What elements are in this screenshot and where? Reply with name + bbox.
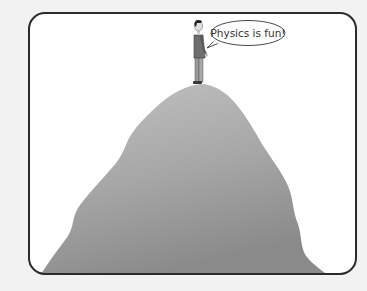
speech-bubble-text: Physics is fun! <box>210 27 285 39</box>
illustration-canvas: Physics is fun! <box>0 0 367 291</box>
